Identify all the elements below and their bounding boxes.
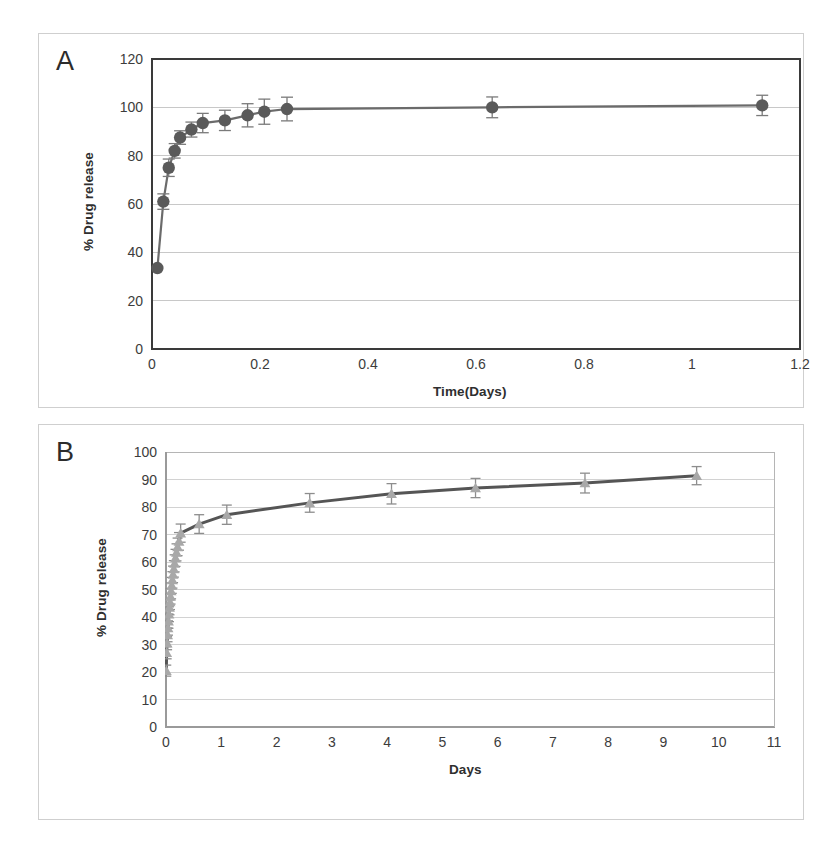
panel-b-y-tick: 20 xyxy=(113,665,157,679)
panel-b-y-tick: 10 xyxy=(113,693,157,707)
panel-a-x-tick: 0.4 xyxy=(343,357,393,371)
panel-b-x-tick: 3 xyxy=(307,735,357,749)
panel-a-y-axis-title: % Drug release xyxy=(81,152,96,251)
panel-a-y-tick: 80 xyxy=(99,149,143,163)
panel-a-x-tick: 0.6 xyxy=(451,357,501,371)
panel-a-letter: A xyxy=(56,48,74,75)
panel-a-y-tick: 100 xyxy=(99,100,143,114)
panel-b-x-tick: 1 xyxy=(196,735,246,749)
panel-b-y-tick: 50 xyxy=(113,583,157,597)
panel-a-y-tick: 40 xyxy=(99,245,143,259)
panel-b-y-tick: 30 xyxy=(113,638,157,652)
panel-b-y-tick: 60 xyxy=(113,555,157,569)
panel-a-x-tick: 0 xyxy=(127,357,177,371)
panel-a-y-tick: 0 xyxy=(99,342,143,356)
panel-b-y-tick: 100 xyxy=(113,445,157,459)
panel-b-x-tick: 9 xyxy=(638,735,688,749)
panel-b-x-tick: 4 xyxy=(362,735,412,749)
panel-b-y-tick: 80 xyxy=(113,500,157,514)
panel-a-y-tick: 60 xyxy=(99,197,143,211)
panel-b-x-axis-title: Days xyxy=(449,762,482,777)
panel-a-plot xyxy=(151,58,801,350)
panel-b-y-tick: 40 xyxy=(113,610,157,624)
panel-b-y-axis-title: % Drug release xyxy=(94,538,109,637)
panel-b-x-tick: 2 xyxy=(252,735,302,749)
panel-a-x-tick: 0.8 xyxy=(559,357,609,371)
panel-a-y-tick: 120 xyxy=(99,52,143,66)
panel-a: A % Drug release Time(Days) 020406080100… xyxy=(38,33,804,408)
panel-a-x-tick: 1.2 xyxy=(775,357,825,371)
panel-b-x-tick: 10 xyxy=(694,735,744,749)
panel-b-x-tick: 11 xyxy=(749,735,799,749)
panel-a-y-tick: 20 xyxy=(99,294,143,308)
panel-b-y-tick: 70 xyxy=(113,528,157,542)
panel-a-x-tick: 0.2 xyxy=(235,357,285,371)
panel-b-x-tick: 7 xyxy=(528,735,578,749)
panel-b-letter: B xyxy=(56,439,74,466)
panel-b-x-tick: 6 xyxy=(473,735,523,749)
panel-b-x-tick: 0 xyxy=(141,735,191,749)
panel-b-plot xyxy=(165,451,775,728)
panel-b-y-tick: 0 xyxy=(113,720,157,734)
panel-b-x-tick: 8 xyxy=(583,735,633,749)
panel-b: B % Drug release Days 010203040506070809… xyxy=(38,424,804,820)
panel-b-y-tick: 90 xyxy=(113,473,157,487)
panel-a-x-tick: 1 xyxy=(667,357,717,371)
figure-container: A % Drug release Time(Days) 020406080100… xyxy=(0,0,839,853)
panel-b-x-tick: 5 xyxy=(417,735,467,749)
panel-a-x-axis-title: Time(Days) xyxy=(433,384,507,399)
